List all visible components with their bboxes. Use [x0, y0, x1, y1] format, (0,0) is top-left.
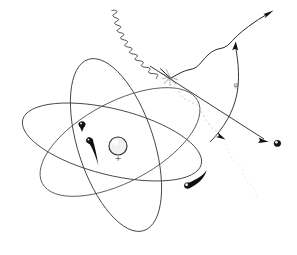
nucleus-highlight — [112, 139, 118, 145]
atom-scattering-figure: + — [0, 0, 297, 255]
nucleus-charge-symbol: + — [115, 152, 121, 164]
electron-upper-left-highlight — [80, 123, 82, 125]
angle-marker-symbol: φ — [234, 80, 239, 89]
figure-canvas: + — [0, 0, 297, 255]
electron-lower-highlight — [185, 183, 188, 186]
electron-inner-left-highlight — [88, 139, 90, 141]
figure-background — [0, 0, 297, 255]
electron-upper-left-body — [79, 122, 85, 128]
electron-ejected-body — [274, 140, 281, 146]
electron-ejected-highlight — [275, 141, 278, 144]
